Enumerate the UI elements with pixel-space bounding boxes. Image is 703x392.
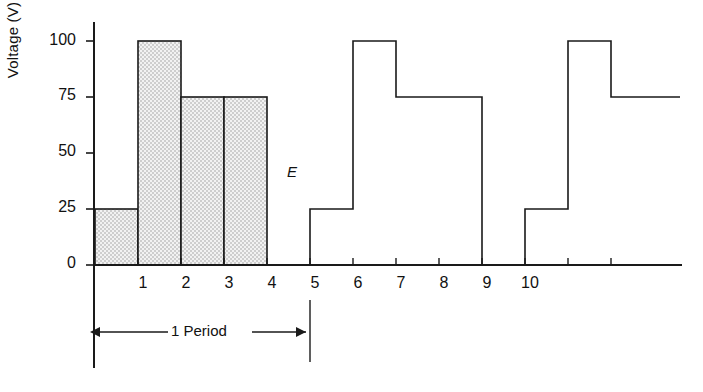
bar-b	[138, 41, 181, 265]
shaded-bars-group	[95, 41, 267, 265]
y-axis-ticks	[86, 41, 94, 265]
bar-d	[224, 97, 267, 265]
bar-a	[95, 209, 138, 265]
bar-c	[181, 97, 224, 265]
voltage-waveform-figure: Voltage (V) 100 75 50 25 0 1 2 3 4 5 6 7…	[0, 0, 703, 392]
waveform-trace	[267, 41, 680, 265]
plot-area	[0, 0, 703, 392]
